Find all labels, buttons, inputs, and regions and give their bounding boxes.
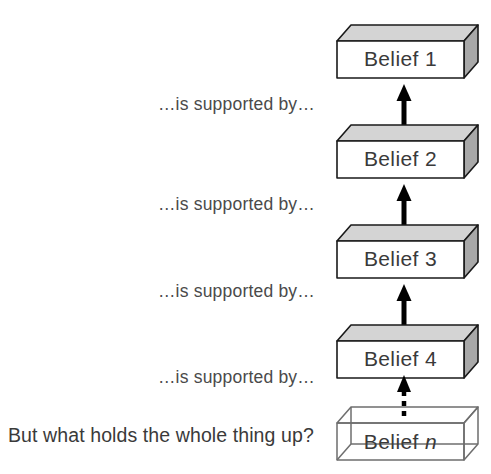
foundation-question: But what holds the whole thing up? bbox=[8, 424, 314, 446]
support-arrow-4-dashed bbox=[397, 375, 411, 416]
relation-label-3: …is supported by… bbox=[158, 281, 315, 301]
belief-block-3-label: Belief 3 bbox=[364, 247, 437, 270]
belief-block-n-hidden-edge-bottom-left bbox=[337, 444, 351, 460]
relation-label-2: …is supported by… bbox=[158, 194, 315, 214]
belief-block-1-label: Belief 1 bbox=[364, 47, 437, 70]
belief-block-4-top-face bbox=[337, 325, 478, 341]
belief-block-1-top-face bbox=[337, 25, 478, 41]
relation-label-1: …is supported by… bbox=[158, 94, 315, 114]
belief-block-n-top-face bbox=[337, 407, 478, 423]
relation-label-4: …is supported by… bbox=[158, 367, 315, 387]
support-arrow-2 bbox=[397, 184, 412, 231]
belief-block-4-label: Belief 4 bbox=[364, 347, 437, 370]
belief-block-n[interactable]: Belief n bbox=[337, 407, 478, 460]
belief-block-n-label: Belief n bbox=[364, 429, 437, 452]
belief-block-2[interactable]: Belief 2 bbox=[337, 125, 478, 178]
support-arrow-3 bbox=[397, 284, 412, 331]
belief-block-1[interactable]: Belief 1 bbox=[337, 25, 478, 78]
belief-block-4[interactable]: Belief 4 bbox=[337, 325, 478, 378]
diagram-page: Belief 1 Belief 2 Belief 3 bbox=[0, 0, 491, 474]
belief-stack-diagram: Belief 1 Belief 2 Belief 3 bbox=[0, 0, 491, 474]
support-arrow-1 bbox=[397, 84, 412, 131]
belief-block-2-top-face bbox=[337, 125, 478, 141]
belief-block-3-top-face bbox=[337, 225, 478, 241]
belief-block-3[interactable]: Belief 3 bbox=[337, 225, 478, 278]
belief-block-n-side-face bbox=[464, 407, 478, 460]
belief-block-2-label: Belief 2 bbox=[364, 147, 437, 170]
